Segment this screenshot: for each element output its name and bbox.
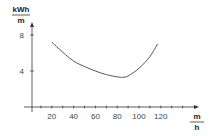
series (52, 42, 158, 77)
y-axis-unit: kWh m (12, 5, 30, 25)
x-tick-label: 60 (91, 112, 100, 121)
x-tick-label: 20 (47, 112, 56, 121)
x-ticks: 20406080100120 (41, 106, 183, 122)
y-unit-denominator: m (17, 16, 24, 25)
y-tick-label: 4 (20, 67, 25, 76)
chart: 20406080100120 48 kWh m m h (0, 0, 214, 136)
y-tick-label: 8 (20, 31, 25, 40)
x-tick-label: 40 (69, 112, 78, 121)
x-tick-label: 120 (154, 112, 168, 121)
x-axis-unit: m h (190, 112, 204, 132)
y-unit-numerator: kWh (13, 5, 30, 14)
x-tick-label: 80 (113, 112, 122, 121)
x-unit-numerator: m (193, 112, 200, 121)
axes (24, 22, 199, 112)
x-axis-arrow-icon (194, 105, 199, 109)
y-axis-arrow-icon (30, 22, 34, 27)
x-tick-label: 100 (132, 112, 146, 121)
x-unit-denominator: h (195, 123, 200, 132)
series-line (52, 42, 158, 77)
